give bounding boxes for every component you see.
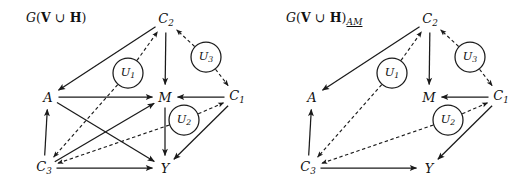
node-label-C3-subscript: 3 bbox=[310, 166, 316, 176]
edge-U1-to-C3 bbox=[318, 85, 382, 158]
edge-U3-to-C2 bbox=[441, 30, 459, 47]
causal-diagram-figure: G(V ∪ H) AMYC1C2C3U1U2U3 G(V ∪ H)AM AMYC… bbox=[0, 0, 528, 186]
node-label-C2: C2 bbox=[422, 12, 438, 27]
latent-label-U3-base: U bbox=[463, 49, 473, 63]
node-label-Y: Y bbox=[161, 162, 170, 175]
latent-label-U2: U2 bbox=[441, 114, 456, 127]
node-label-C1-subscript: 1 bbox=[239, 95, 245, 105]
edge-U1-to-C2 bbox=[137, 32, 158, 61]
node-label-C2-subscript: 2 bbox=[168, 18, 174, 28]
node-label-M: M bbox=[158, 91, 171, 104]
edge-U3-to-C1 bbox=[215, 69, 228, 85]
latent-label-U1-base: U bbox=[121, 65, 131, 79]
latent-label-U3-subscript: 3 bbox=[472, 55, 477, 64]
edge-U1-to-C3 bbox=[54, 85, 118, 158]
node-label-A-base: A bbox=[307, 90, 316, 105]
latent-label-U3: U3 bbox=[199, 51, 214, 64]
node-label-C3: C3 bbox=[36, 160, 52, 175]
node-label-Y-base: Y bbox=[425, 161, 434, 176]
latent-label-U3: U3 bbox=[463, 51, 478, 64]
latent-label-U1-subscript: 1 bbox=[394, 71, 399, 80]
node-label-M-base: M bbox=[422, 90, 435, 105]
node-label-C1-base: C bbox=[229, 88, 239, 103]
node-label-C2: C2 bbox=[158, 12, 174, 27]
edge-C2-to-M bbox=[165, 33, 166, 85]
node-label-M: M bbox=[422, 91, 435, 104]
node-label-A: A bbox=[43, 91, 52, 104]
latent-label-U1-subscript: 1 bbox=[130, 71, 135, 80]
latent-label-U2-subscript: 2 bbox=[186, 118, 191, 127]
edge-U2-to-C3 bbox=[322, 125, 434, 163]
node-label-A: A bbox=[307, 91, 316, 104]
latent-label-U2-base: U bbox=[441, 112, 451, 126]
panel-mutilated-graph: G(V ∪ H)AM AMYC1C2C3U1U2U3 bbox=[264, 0, 528, 186]
node-label-C1-base: C bbox=[493, 88, 503, 103]
graph-canvas-right bbox=[264, 0, 528, 186]
node-label-C2-subscript: 2 bbox=[432, 18, 438, 28]
node-label-Y: Y bbox=[425, 162, 434, 175]
node-label-C2-base: C bbox=[422, 11, 432, 26]
latent-label-U2-base: U bbox=[177, 112, 187, 126]
node-label-C3-subscript: 3 bbox=[46, 166, 52, 176]
edge-U3-to-C2 bbox=[177, 30, 195, 47]
edge-C2-to-M bbox=[429, 33, 430, 85]
latent-label-U3-base: U bbox=[199, 49, 209, 63]
node-label-C1: C1 bbox=[229, 89, 245, 104]
edge-C3-to-A bbox=[309, 109, 312, 155]
node-label-C3-base: C bbox=[300, 159, 310, 174]
edge-U2-to-C1 bbox=[198, 103, 223, 114]
node-label-C1: C1 bbox=[493, 89, 509, 104]
latent-label-U1-base: U bbox=[385, 65, 395, 79]
node-label-C3: C3 bbox=[300, 160, 316, 175]
node-label-C1-subscript: 1 bbox=[503, 95, 509, 105]
node-label-M-base: M bbox=[158, 90, 171, 105]
latent-label-U2: U2 bbox=[177, 114, 192, 127]
edge-U1-to-C2 bbox=[401, 32, 422, 61]
node-label-C2-base: C bbox=[158, 11, 168, 26]
edge-U2-to-C3 bbox=[58, 125, 170, 163]
edge-U3-to-C1 bbox=[479, 69, 492, 85]
node-label-A-base: A bbox=[43, 90, 52, 105]
edge-C3-to-A bbox=[45, 109, 48, 155]
graph-canvas-left bbox=[0, 0, 264, 186]
node-label-Y-base: Y bbox=[161, 161, 170, 176]
panel-observational-graph: G(V ∪ H) AMYC1C2C3U1U2U3 bbox=[0, 0, 264, 186]
latent-label-U3-subscript: 3 bbox=[208, 55, 213, 64]
latent-label-U2-subscript: 2 bbox=[450, 118, 455, 127]
latent-label-U1: U1 bbox=[121, 67, 136, 80]
edge-U2-to-C1 bbox=[462, 103, 487, 114]
node-label-C3-base: C bbox=[36, 159, 46, 174]
latent-label-U1: U1 bbox=[385, 67, 400, 80]
